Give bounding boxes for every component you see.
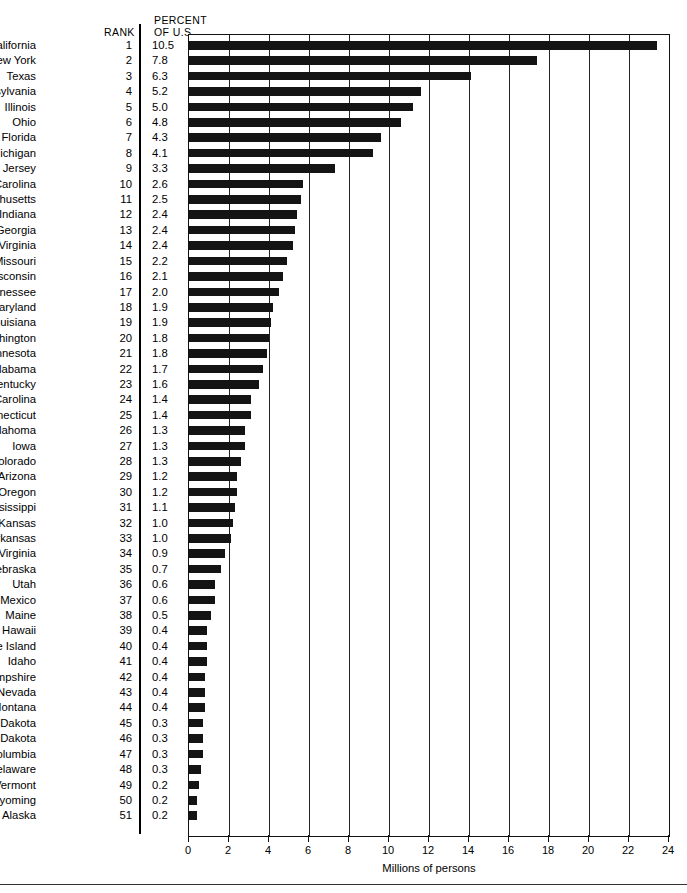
state-percent-value: 1.8 xyxy=(152,332,180,345)
bar-row xyxy=(189,701,669,716)
state-name-label: Utah xyxy=(12,578,36,591)
state-rank-value: 23 xyxy=(110,378,132,391)
table-row: Oregon301.2 xyxy=(0,485,186,500)
x-tick-label-0: 0 xyxy=(173,843,203,857)
state-percent-value: 2.2 xyxy=(152,255,180,268)
state-name-label: Idaho xyxy=(8,655,36,668)
bar-row xyxy=(189,640,669,655)
x-tick-label-24: 24 xyxy=(653,843,683,857)
bar-row xyxy=(189,501,669,516)
state-name-label: Arkansas xyxy=(0,532,36,545)
bar xyxy=(189,56,537,65)
bar xyxy=(189,503,235,512)
state-name-label: California xyxy=(0,39,36,52)
state-name-label: Oklahoma xyxy=(0,424,36,437)
state-percent-value: 7.8 xyxy=(152,54,180,67)
table-row: New Jersey93.3 xyxy=(0,161,186,176)
state-rank-value: 9 xyxy=(110,162,132,175)
table-row: South Carolina241.4 xyxy=(0,392,186,407)
state-rank-value: 47 xyxy=(110,748,132,761)
bar-row xyxy=(189,517,669,532)
state-rank-value: 3 xyxy=(110,70,132,83)
x-tick-label-20: 20 xyxy=(573,843,603,857)
bar xyxy=(189,257,287,266)
bar xyxy=(189,334,269,343)
state-name-label: Vermont xyxy=(0,779,36,792)
state-percent-value: 1.1 xyxy=(152,501,180,514)
x-tick-6 xyxy=(308,835,309,842)
bar-row xyxy=(189,301,669,316)
state-percent-value: 5.0 xyxy=(152,101,180,114)
state-name-label: Alaska xyxy=(2,809,36,822)
bar-row xyxy=(189,378,669,393)
table-row: Wisconsin162.1 xyxy=(0,269,186,284)
state-rank-value: 15 xyxy=(110,255,132,268)
bar-row xyxy=(189,686,669,701)
state-rank-value: 4 xyxy=(110,85,132,98)
bar-row xyxy=(189,779,669,794)
state-name-label: Michigan xyxy=(0,147,36,160)
state-name-label: Nebraska xyxy=(0,563,36,576)
state-percent-value: 0.4 xyxy=(152,640,180,653)
bar-row xyxy=(189,193,669,208)
table-row: Idaho410.4 xyxy=(0,654,186,669)
bar xyxy=(189,87,421,96)
state-percent-value: 2.4 xyxy=(152,239,180,252)
state-rank-value: 20 xyxy=(110,332,132,345)
state-percent-value: 1.3 xyxy=(152,455,180,468)
bar-series xyxy=(189,39,669,825)
state-percent-value: 1.3 xyxy=(152,440,180,453)
state-name-label: Missouri xyxy=(0,255,36,268)
bar-row xyxy=(189,162,669,177)
state-rank-value: 48 xyxy=(110,763,132,776)
state-percent-value: 6.3 xyxy=(152,70,180,83)
bar xyxy=(189,288,279,297)
state-rank-value: 45 xyxy=(110,717,132,730)
bar xyxy=(189,442,245,451)
bar-row xyxy=(189,809,669,824)
state-rank-value: 16 xyxy=(110,270,132,283)
bar xyxy=(189,688,205,697)
state-name-label: Maryland xyxy=(0,301,36,314)
table-row: Iowa271.3 xyxy=(0,439,186,454)
table-row: Washington201.8 xyxy=(0,331,186,346)
bar-row xyxy=(189,732,669,747)
state-rank-value: 8 xyxy=(110,147,132,160)
bar-row xyxy=(189,39,669,54)
bar-row xyxy=(189,794,669,809)
table-row: Oklahoma261.3 xyxy=(0,423,186,438)
state-rank-value: 42 xyxy=(110,671,132,684)
state-percent-value: 1.9 xyxy=(152,316,180,329)
table-row: Virginia142.4 xyxy=(0,238,186,253)
bar-row xyxy=(189,70,669,85)
x-tick-0 xyxy=(188,835,189,842)
x-tick-2 xyxy=(228,835,229,842)
state-rank-value: 46 xyxy=(110,732,132,745)
state-percent-value: 0.4 xyxy=(152,624,180,637)
state-rank-value: 10 xyxy=(110,178,132,191)
state-name-label: Hawaii xyxy=(2,624,36,637)
table-row: Colorado281.3 xyxy=(0,454,186,469)
bar xyxy=(189,565,221,574)
bar-row xyxy=(189,424,669,439)
state-name-label: Colorado xyxy=(0,455,36,468)
percent-column-header: PERCENT xyxy=(154,14,207,26)
bar xyxy=(189,349,267,358)
bar-row xyxy=(189,393,669,408)
bar-row xyxy=(189,363,669,378)
state-percent-value: 1.4 xyxy=(152,409,180,422)
table-row: New Hampshire420.4 xyxy=(0,670,186,685)
bar-row xyxy=(189,547,669,562)
bar xyxy=(189,734,203,743)
bar xyxy=(189,303,273,312)
state-name-label: Louisiana xyxy=(0,316,36,329)
state-percent-value: 1.7 xyxy=(152,363,180,376)
table-row: New York27.8 xyxy=(0,53,186,68)
bar xyxy=(189,765,201,774)
table-row: Massachusetts112.5 xyxy=(0,192,186,207)
bar-row xyxy=(189,178,669,193)
state-rank-value: 29 xyxy=(110,470,132,483)
bar-row xyxy=(189,409,669,424)
bar-row xyxy=(189,748,669,763)
bar xyxy=(189,365,263,374)
